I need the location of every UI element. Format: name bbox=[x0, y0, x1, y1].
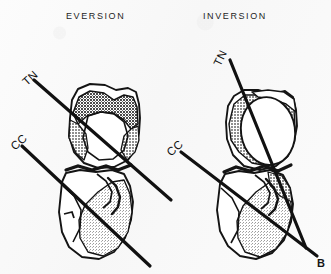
eversion-bone-group bbox=[22, 80, 171, 266]
panel-title-eversion: EVERSION bbox=[66, 11, 125, 21]
anatomy-figure: EVERSION INVERSION TN CC TN CC B bbox=[0, 0, 331, 274]
panel-title-inversion: INVERSION bbox=[203, 11, 267, 21]
inversion-bone-group bbox=[181, 60, 317, 259]
bone-diagram-canvas bbox=[0, 0, 331, 274]
figure-panel-letter: B bbox=[317, 257, 325, 269]
